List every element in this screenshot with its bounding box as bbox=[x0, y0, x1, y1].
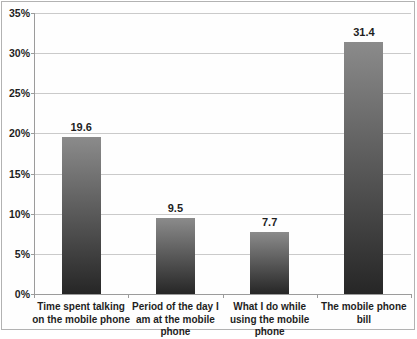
bar-value-label: 9.5 bbox=[168, 202, 183, 214]
bar bbox=[344, 42, 383, 294]
bar-value-label: 31.4 bbox=[353, 26, 374, 38]
x-axis-tick bbox=[317, 295, 318, 298]
bar-value-label: 19.6 bbox=[70, 121, 91, 133]
y-axis-tick bbox=[31, 254, 34, 255]
bar-chart: 19.69.57.731.4 0%5%10%15%20%25%30%35% Ti… bbox=[1, 1, 415, 330]
category-label: What I do while using the mobile phone bbox=[220, 301, 320, 339]
bar bbox=[156, 218, 195, 294]
x-axis-tick bbox=[223, 295, 224, 298]
y-axis-tick-label: 30% bbox=[2, 47, 30, 59]
y-axis-tick-label: 0% bbox=[2, 288, 30, 300]
y-axis-tick bbox=[31, 214, 34, 215]
x-axis-tick bbox=[411, 295, 412, 298]
category-label: Period of the day I am at the mobile pho… bbox=[125, 301, 225, 339]
category-label: The mobile phone bill bbox=[314, 301, 414, 326]
category-label: Time spent talking on the mobile phone bbox=[31, 301, 131, 326]
y-axis-tick bbox=[31, 93, 34, 94]
bar bbox=[62, 137, 101, 294]
y-axis-tick bbox=[31, 174, 34, 175]
y-axis-tick-label: 5% bbox=[2, 248, 30, 260]
y-axis-tick-label: 25% bbox=[2, 87, 30, 99]
y-axis-tick bbox=[31, 53, 34, 54]
gridline bbox=[34, 13, 411, 14]
y-axis-tick-label: 35% bbox=[2, 7, 30, 19]
y-axis-tick bbox=[31, 13, 34, 14]
y-axis-line bbox=[34, 13, 35, 294]
y-axis-tick-label: 10% bbox=[2, 208, 30, 220]
bar bbox=[250, 232, 289, 294]
y-axis-tick bbox=[31, 294, 34, 295]
x-axis-tick bbox=[34, 295, 35, 298]
x-axis-tick bbox=[128, 295, 129, 298]
y-axis-tick-label: 15% bbox=[2, 168, 30, 180]
y-axis-tick bbox=[31, 133, 34, 134]
bar-value-label: 7.7 bbox=[262, 216, 277, 228]
y-axis-tick-label: 20% bbox=[2, 127, 30, 139]
